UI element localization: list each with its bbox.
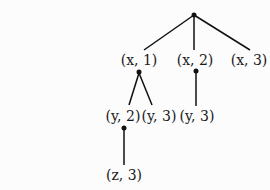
edge-root-x1 xyxy=(144,15,194,50)
edge-x1-y3 xyxy=(139,73,152,105)
root-node-dot xyxy=(192,13,197,18)
node-dot-x1 xyxy=(137,70,142,75)
tree-diagram: (x, 1) (x, 2) (x, 3) (y, 2) (y, 3) (y, 3… xyxy=(0,0,270,190)
node-label-z3: (z, 3) xyxy=(106,167,142,183)
edge-root-x3 xyxy=(194,15,250,50)
node-label-x2: (x, 2) xyxy=(177,52,214,68)
node-label-x3: (x, 3) xyxy=(231,52,268,68)
node-dot-y2 xyxy=(122,126,127,131)
node-label-y3-b: (y, 3) xyxy=(180,108,215,124)
node-label-y3-a: (y, 3) xyxy=(142,108,177,124)
node-label-y2: (y, 2) xyxy=(106,108,141,124)
tree-svg: (x, 1) (x, 2) (x, 3) (y, 2) (y, 3) (y, 3… xyxy=(0,0,270,190)
edge-x1-y2 xyxy=(129,73,139,105)
node-dot-x2 xyxy=(194,69,199,74)
node-label-x1: (x, 1) xyxy=(121,52,158,68)
